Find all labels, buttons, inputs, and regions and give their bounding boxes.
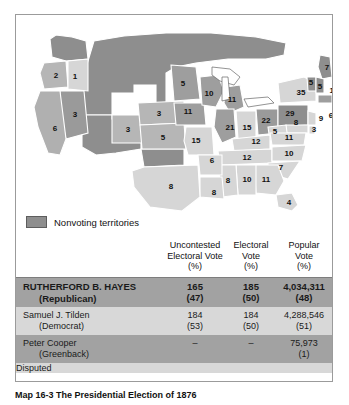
percent: (1) (278, 349, 330, 360)
header-popular-line3: (%) (297, 261, 311, 271)
value: 165 (166, 281, 224, 292)
row-candidate-cooper: Peter Cooper (Greenback) (16, 335, 164, 363)
map-votes-va: 11 (285, 134, 293, 142)
map-votes-tx: 8 (169, 183, 173, 191)
map-votes-ms: 8 (226, 177, 230, 185)
map-state-massachusetts (318, 95, 332, 103)
map-votes-ga: 11 (262, 176, 270, 184)
map-votes-nv: 3 (73, 111, 77, 119)
table-row: RUTHERFORD B. HAYES (Republican) 165 (47… (16, 278, 332, 307)
map-votes-me: 7 (325, 64, 329, 72)
map-region-indian-territory (141, 149, 184, 167)
value: 185 (228, 281, 274, 292)
header-electoral: Electoral Vote (%) (226, 237, 276, 277)
map-state-minnesota (171, 65, 200, 101)
map-votes-fl: 4 (287, 199, 291, 207)
map-votes-al: 10 (243, 176, 252, 184)
map-state-idaho (68, 59, 88, 91)
map-votes-mo: 15 (192, 137, 201, 145)
map-votes-la: 8 (212, 189, 216, 197)
table-header-row: Uncontested Electoral Vote (%) Electoral… (16, 237, 332, 277)
map-votes-or: 2 (54, 72, 58, 80)
header-electoral-line1: Electoral (233, 240, 268, 250)
header-blank (16, 237, 164, 277)
header-uncontested-line2: Electoral Vote (167, 251, 223, 261)
map-votes-ma: 13 (330, 87, 332, 95)
cell-uncontested-hayes: 165 (47) (164, 278, 226, 307)
value: – (166, 338, 224, 349)
map-votes-ny: 35 (297, 89, 306, 97)
map-votes-md: 8 (294, 119, 298, 127)
cell-popular-hayes: 4,034,311 (48) (276, 278, 332, 307)
figure-container: 2136335511151011211522293575513469385111… (15, 14, 333, 382)
results-table: Uncontested Electoral Vote (%) Electoral… (16, 237, 332, 373)
map-state-texas (132, 165, 200, 211)
map-votes-ca: 6 (53, 125, 57, 133)
map-votes-co: 3 (126, 126, 130, 134)
row-candidate-hayes: RUTHERFORD B. HAYES (Republican) (16, 278, 164, 307)
map-votes-in: 15 (243, 124, 252, 132)
percent: (50) (228, 321, 274, 332)
map-state-washington (50, 35, 88, 61)
election-map: 2136335511151011211522293575513469385111… (16, 15, 332, 211)
percent: (51) (278, 321, 330, 332)
percent: (48) (278, 292, 330, 303)
candidate-party: (Democrat) (23, 321, 162, 332)
map-votes-de: 3 (312, 126, 316, 134)
map-votes-pa: 29 (286, 110, 295, 118)
figure-caption: Map 16-3 The Presidential Election of 18… (15, 390, 335, 404)
map-votes-oh: 22 (262, 117, 271, 125)
header-uncontested-line1: Uncontested (170, 240, 221, 250)
value: 75,973 (278, 338, 330, 349)
map-legend: Nonvoting territories (26, 211, 226, 233)
value: 184 (166, 310, 224, 321)
candidate-name: Samuel J. Tilden (23, 310, 90, 320)
map-state-new-jersey (308, 111, 316, 125)
map-votes-mi: 11 (228, 96, 236, 104)
percent: (53) (166, 321, 224, 332)
cell-electoral-cooper: – (226, 335, 276, 363)
candidate-name: RUTHERFORD B. HAYES (23, 281, 136, 292)
percent: (47) (166, 292, 224, 303)
map-votes-ct: 6 (329, 112, 332, 120)
cell-uncontested-cooper: – (164, 335, 226, 363)
percent: (50) (228, 292, 274, 303)
map-votes-id: 1 (73, 73, 77, 81)
cell-uncontested-tilden: 184 (53) (164, 307, 226, 335)
cell-electoral-tilden: 184 (50) (226, 307, 276, 335)
cell-popular-cooper: 75,973 (1) (276, 335, 332, 363)
map-votes-tn: 12 (243, 154, 252, 162)
map-votes-ks: 5 (161, 134, 165, 142)
map-votes-nh: 5 (318, 83, 322, 91)
legend-swatch-nonvoting (26, 216, 47, 228)
cell-popular-tilden: 4,288,546 (51) (276, 307, 332, 335)
table-row: Peter Cooper (Greenback) – – 75,973 (1) (16, 335, 332, 363)
value: 4,288,546 (278, 310, 330, 321)
cell-electoral-hayes: 185 (50) (226, 278, 276, 307)
row-candidate-tilden: Samuel J. Tilden (Democrat) (16, 307, 164, 335)
map-votes-sc: 7 (279, 164, 283, 172)
header-electoral-line3: (%) (244, 261, 258, 271)
map-state-california (34, 91, 66, 155)
map-votes-ia: 11 (184, 108, 192, 116)
map-votes-nc: 10 (285, 150, 294, 158)
candidate-name: Peter Cooper (23, 338, 77, 348)
map-votes-wv: 5 (273, 128, 277, 136)
map-votes-wi: 10 (205, 90, 214, 98)
table-row-disputed: Disputed (16, 363, 332, 373)
header-electoral-line2: Vote (242, 251, 260, 261)
legend-label-nonvoting: Nonvoting territories (54, 217, 139, 228)
value: 4,034,311 (278, 281, 330, 292)
map-votes-ar: 6 (210, 157, 214, 165)
lake-erie-outline (244, 97, 274, 107)
map-votes-ky: 12 (252, 138, 261, 146)
candidate-party: (Greenback) (23, 349, 162, 360)
map-votes-il: 21 (226, 124, 235, 132)
candidate-party: (Republican) (23, 293, 162, 304)
header-popular-line1: Popular (288, 240, 319, 250)
map-votes-ne: 3 (157, 110, 161, 118)
value: – (228, 338, 274, 349)
map-votes-nj: 9 (319, 115, 323, 123)
header-popular: Popular Vote (%) (276, 237, 332, 277)
header-uncontested: Uncontested Electoral Vote (%) (164, 237, 226, 277)
